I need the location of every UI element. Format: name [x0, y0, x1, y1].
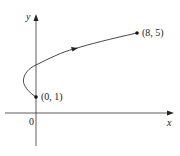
- origin-label: 0: [29, 117, 34, 127]
- parametric-curve: [23, 33, 137, 97]
- x-axis-arrow-icon: [167, 111, 174, 116]
- start-point-label: (0, 1): [41, 92, 63, 102]
- y-axis-arrow-icon: [34, 14, 39, 21]
- parametric-curve-plot: [0, 0, 180, 156]
- start-point: [34, 95, 38, 99]
- end-point: [135, 31, 139, 35]
- end-point-label: (8, 5): [142, 28, 164, 38]
- y-axis-label: y: [26, 12, 30, 22]
- x-axis-label: x: [167, 118, 171, 128]
